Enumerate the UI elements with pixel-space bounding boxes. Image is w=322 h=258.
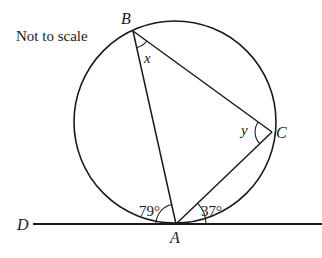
angle-arc-x — [137, 41, 147, 48]
point-label-a: A — [169, 229, 180, 246]
point-label-c: C — [276, 124, 287, 141]
point-label-d: D — [16, 216, 29, 233]
angle-label-37: 37° — [201, 203, 222, 219]
point-label-b: B — [121, 10, 131, 27]
circle-theorem-diagram: Not to scale B C A D x y 79° 37° — [0, 0, 322, 258]
angle-arc-y — [255, 122, 260, 144]
angle-label-y: y — [239, 122, 248, 138]
chord-ab — [133, 31, 176, 224]
note-not-to-scale: Not to scale — [16, 28, 88, 44]
angle-label-79: 79° — [139, 203, 160, 219]
angle-label-x: x — [143, 50, 151, 66]
chord-bc — [133, 31, 272, 132]
